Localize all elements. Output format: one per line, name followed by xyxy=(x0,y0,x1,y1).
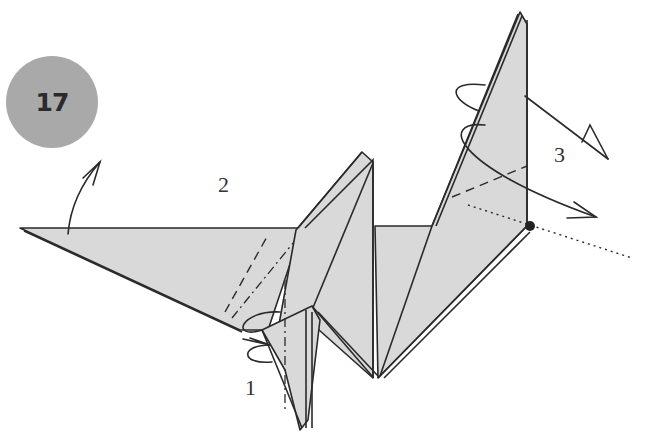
step-number: 17 xyxy=(36,88,69,117)
origami-diagram xyxy=(0,0,648,447)
left-wing xyxy=(20,228,305,332)
substep-label-3: 3 xyxy=(554,142,565,168)
step-number-badge: 17 xyxy=(6,56,98,148)
substep-label-1: 1 xyxy=(245,375,256,401)
valley-fold-arrow-2 xyxy=(68,162,100,234)
neck xyxy=(375,12,530,378)
substep-label-2: 2 xyxy=(218,172,229,198)
pivot-dot xyxy=(525,221,535,231)
